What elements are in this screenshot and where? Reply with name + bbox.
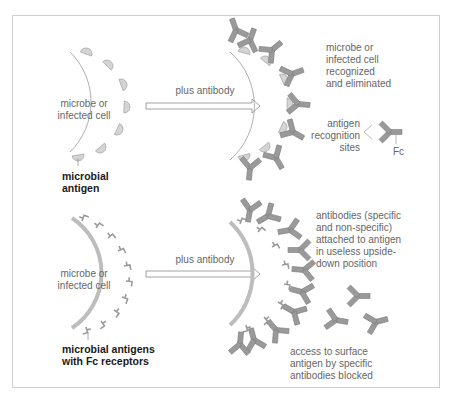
- bottom-result-label: antibodies (specific and non-specific) a…: [316, 210, 440, 270]
- bottom-arrow: [146, 267, 260, 281]
- antibody-icon: [222, 15, 311, 181]
- top-cell-with-antibodies: [222, 15, 311, 181]
- recognition-sites-label: antigen recognition sites: [290, 118, 360, 154]
- top-antigen-label: microbial antigen: [62, 170, 162, 194]
- bottom-antigen-label: microbial antigens with Fc receptors: [62, 343, 202, 367]
- fc-label: Fc: [393, 146, 413, 158]
- top-arrow-label: plus antibody: [160, 85, 250, 97]
- free-antibody-icon: [323, 285, 390, 335]
- top-result-label: microbe or infected cell recognized and …: [326, 42, 436, 90]
- top-arrow: [146, 99, 260, 113]
- bottom-arrow-label: plus antibody: [160, 254, 250, 266]
- top-cell-label: microbe or infected cell: [44, 98, 124, 122]
- bottom-cell-label: microbe or infected cell: [44, 268, 124, 292]
- blocked-label: access to surface antigen by specific an…: [290, 346, 410, 382]
- antibody-legend-icon: [364, 121, 402, 144]
